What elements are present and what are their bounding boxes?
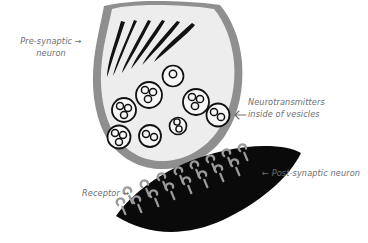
neurotransmitter bbox=[169, 70, 176, 77]
post-synaptic-arrow: ← bbox=[262, 168, 269, 178]
neurotransmitter bbox=[151, 134, 158, 141]
pre-synaptic-arrow: → bbox=[75, 36, 82, 46]
neurotransmitter bbox=[112, 130, 119, 137]
neurotransmitter bbox=[116, 139, 123, 146]
vesicle bbox=[207, 104, 230, 127]
neurotransmitter bbox=[176, 126, 182, 132]
neurotransmitter bbox=[174, 119, 180, 125]
neurotransmitter bbox=[210, 108, 217, 115]
neurotransmitter-callout-arrow-icon bbox=[232, 108, 248, 122]
label-post-synaptic-neuron: ← Post-synaptic neuron bbox=[262, 168, 368, 180]
vesicle bbox=[163, 66, 184, 87]
neurotransmitter bbox=[188, 93, 195, 100]
vesicle bbox=[136, 82, 162, 108]
neurotransmitter bbox=[120, 132, 127, 139]
label-receptor: Receptor → bbox=[82, 188, 154, 200]
neurotransmitter bbox=[217, 113, 224, 120]
vesicle bbox=[170, 118, 187, 135]
neurotransmitter bbox=[117, 103, 124, 110]
receptor-arrow: → bbox=[123, 188, 130, 198]
neurotransmitter bbox=[149, 88, 156, 95]
vesicle bbox=[108, 126, 131, 149]
neurotransmitter bbox=[196, 95, 203, 102]
synapse-diagram: Pre-synaptic →neuron Neurotransmittersin… bbox=[0, 0, 368, 243]
vesicle bbox=[112, 98, 136, 122]
label-pre-synaptic-line2: neuron bbox=[36, 48, 66, 58]
neurotransmitter bbox=[191, 102, 198, 109]
neurotransmitter bbox=[125, 105, 132, 112]
label-receptor-text: Receptor bbox=[82, 188, 120, 198]
neurotransmitter bbox=[141, 86, 148, 93]
label-neurotransmitters: Neurotransmittersinside of vesicles bbox=[248, 97, 366, 120]
label-pre-synaptic-neuron: Pre-synaptic →neuron bbox=[12, 36, 90, 59]
vesicle bbox=[183, 89, 209, 115]
vesicle bbox=[139, 125, 161, 147]
neurotransmitter bbox=[121, 112, 128, 119]
label-neurotransmitters-line2: inside of vesicles bbox=[248, 109, 320, 119]
neurotransmitter bbox=[143, 131, 150, 138]
label-post-synaptic-text: Post-synaptic neuron bbox=[272, 168, 360, 178]
pre-synaptic-terminal bbox=[93, 1, 243, 169]
neurotransmitter bbox=[144, 95, 151, 102]
label-neurotransmitters-line1: Neurotransmitters bbox=[248, 97, 325, 107]
label-pre-synaptic-line1: Pre-synaptic bbox=[20, 36, 72, 46]
